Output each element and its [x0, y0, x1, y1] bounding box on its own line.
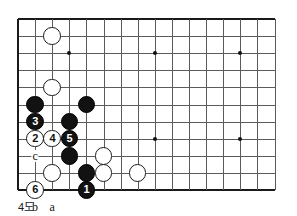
star-point	[238, 137, 242, 141]
numbered-stone-white: 6	[26, 181, 44, 199]
star-point	[67, 51, 71, 55]
go-diagram-figure: 324561 cba 4도	[0, 0, 297, 216]
star-point	[153, 51, 157, 55]
stone-black	[78, 164, 96, 182]
stone-white	[95, 147, 113, 165]
stone-move-number: 1	[84, 184, 90, 195]
grid-line-vertical	[121, 19, 122, 190]
grid-line-vertical	[172, 19, 173, 190]
board-point-label: c	[31, 150, 38, 162]
grid-line-vertical	[206, 19, 207, 190]
grid-line-vertical	[155, 19, 156, 190]
numbered-stone-black: 5	[61, 130, 79, 148]
stone-move-number: 3	[32, 116, 38, 127]
star-point	[153, 137, 157, 141]
stone-white	[43, 164, 61, 182]
grid-line-vertical	[189, 19, 190, 190]
grid-line-horizontal	[18, 70, 275, 71]
star-point	[238, 51, 242, 55]
grid-line-vertical	[275, 19, 276, 190]
numbered-stone-black: 1	[78, 181, 96, 199]
grid-line-horizontal	[18, 105, 275, 106]
numbered-stone-white: 2	[26, 130, 44, 148]
stone-white	[43, 27, 61, 45]
stone-black	[61, 147, 79, 165]
stone-move-number: 5	[66, 133, 72, 144]
grid-line-vertical	[240, 19, 241, 190]
stone-move-number: 2	[32, 133, 38, 144]
grid-line-vertical	[257, 19, 258, 190]
stone-black	[78, 96, 96, 114]
stone-white	[95, 164, 113, 182]
stone-move-number: 6	[32, 184, 38, 195]
stone-black	[61, 113, 79, 131]
grid-line-horizontal	[18, 122, 275, 123]
stone-white	[43, 79, 61, 97]
grid-line-vertical	[17, 19, 19, 190]
stone-black	[26, 96, 44, 114]
grid-line-vertical	[223, 19, 224, 190]
stone-move-number: 4	[49, 133, 55, 144]
numbered-stone-black: 3	[26, 113, 44, 131]
grid-line-horizontal	[18, 18, 275, 20]
grid-line-horizontal	[18, 53, 275, 54]
board-point-label: a	[49, 201, 56, 213]
grid-line-horizontal	[18, 189, 275, 191]
grid-line-horizontal	[18, 156, 275, 157]
go-board[interactable]: 324561 cba	[0, 0, 297, 196]
stone-white	[129, 164, 147, 182]
figure-caption: 4도	[18, 198, 34, 214]
numbered-stone-white: 4	[43, 130, 61, 148]
